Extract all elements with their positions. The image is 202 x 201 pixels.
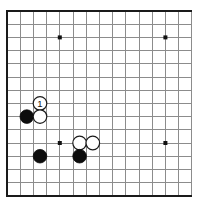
star-point-upper-left: [58, 35, 62, 39]
white-stone-move-1-label: 1: [37, 98, 42, 109]
star-point-center-right: [163, 141, 167, 145]
white-stone-center-a[interactable]: [73, 136, 87, 150]
white-stone-left-lower[interactable]: [33, 110, 47, 124]
board-canvas[interactable]: 1: [0, 0, 202, 201]
star-point-upper-right: [163, 35, 167, 39]
white-stone-center-b[interactable]: [86, 136, 100, 150]
black-stone-left-upper[interactable]: [20, 110, 34, 124]
black-stone-lower-left[interactable]: [33, 149, 47, 163]
go-board-diagram[interactable]: 1: [0, 0, 202, 201]
black-stone-lower-center[interactable]: [73, 149, 87, 163]
star-point-center-left: [58, 141, 62, 145]
